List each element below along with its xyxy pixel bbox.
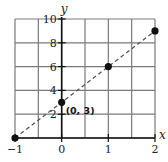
x-tick-label: −1 (7, 143, 23, 156)
chart: 246810−1012xy(0, 3) (0, 0, 168, 162)
data-point (58, 99, 65, 106)
tick-labels: 246810−1012xy(0, 3) (7, 2, 166, 156)
y-tick-label: 6 (50, 61, 57, 74)
y-tick-label: 4 (50, 84, 57, 97)
data-point (105, 63, 112, 70)
x-tick-label: 2 (152, 143, 159, 156)
x-axis-label: x (159, 128, 166, 142)
point-annotation: (0, 3) (66, 105, 95, 116)
y-axis-label: y (60, 2, 68, 16)
y-tick-label: 2 (50, 108, 57, 121)
x-tick-label: 0 (58, 143, 65, 156)
data-point (11, 134, 18, 141)
x-tick-label: 1 (105, 143, 112, 156)
data-point (151, 27, 158, 34)
y-tick-label: 10 (43, 13, 57, 26)
y-tick-label: 8 (50, 37, 57, 50)
grid (15, 19, 155, 138)
